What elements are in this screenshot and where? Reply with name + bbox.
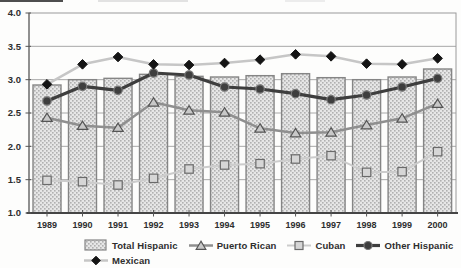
bar-total-hispanic <box>175 76 203 213</box>
x-tick-label: 1999 <box>392 220 412 230</box>
legend-item-puerto-rican: Puerto Rican <box>189 239 277 252</box>
y-tick-label: 1.0 <box>8 207 21 218</box>
square-marker <box>149 174 157 182</box>
circle-marker <box>256 85 264 93</box>
legend-label-other-hispanic: Other Hispanic <box>384 240 453 251</box>
legend-label-mexican: Mexican <box>112 255 150 266</box>
diamond-marker-icon <box>84 254 108 267</box>
circle-marker <box>398 83 406 91</box>
chart-legend: Total Hispanic Puerto Rican Cuban Other … <box>84 239 453 268</box>
square-marker <box>327 151 335 159</box>
square-marker-icon <box>287 239 311 252</box>
square-marker <box>291 155 299 163</box>
diamond-marker <box>291 50 301 60</box>
diamond-marker <box>78 60 88 70</box>
legend-label-total-hispanic: Total Hispanic <box>112 240 178 251</box>
circle-marker <box>362 91 370 99</box>
y-tick-label: 2.0 <box>8 141 21 152</box>
diamond-marker <box>113 52 123 62</box>
bar-total-hispanic <box>69 80 97 213</box>
x-tick-label: 1997 <box>321 220 341 230</box>
diamond-marker <box>362 59 372 69</box>
square-marker <box>78 177 86 185</box>
square-marker <box>220 161 228 169</box>
x-tick-label: 1998 <box>357 220 377 230</box>
square-marker <box>256 159 264 167</box>
legend-item-mexican: Mexican <box>84 254 150 267</box>
diamond-marker <box>255 55 265 65</box>
bar-total-hispanic <box>104 78 132 213</box>
y-tick-label: 3.0 <box>8 74 21 85</box>
circle-marker <box>291 89 299 97</box>
legend-item-total-hispanic: Total Hispanic <box>84 239 178 252</box>
x-tick-label: 1996 <box>286 220 306 230</box>
x-tick-label: 1992 <box>144 220 164 230</box>
square-marker <box>114 181 122 189</box>
diamond-marker <box>220 58 230 68</box>
square-marker <box>185 165 193 173</box>
bar-swatch-icon <box>84 239 108 252</box>
x-tick-label: 1994 <box>215 220 235 230</box>
scanned-chart-page: 1.01.52.02.53.03.54.01989199019911992199… <box>0 0 461 268</box>
legend-label-cuban: Cuban <box>315 240 345 251</box>
square-marker <box>398 167 406 175</box>
circle-marker <box>43 97 51 105</box>
diamond-marker <box>433 54 443 64</box>
circle-marker <box>78 82 86 90</box>
diamond-marker <box>149 60 159 70</box>
circle-marker <box>433 74 441 82</box>
x-tick-label: 1991 <box>108 220 128 230</box>
circle-marker <box>185 71 193 79</box>
legend-row-1: Total Hispanic Puerto Rican Cuban Other … <box>84 239 453 252</box>
square-marker <box>433 147 441 155</box>
legend-row-2: Mexican <box>84 254 453 267</box>
x-tick-label: 1995 <box>250 220 270 230</box>
chart-plot: 1.01.52.02.53.03.54.01989199019911992199… <box>0 0 461 236</box>
y-tick-label: 2.5 <box>8 107 22 118</box>
diamond-marker <box>326 52 336 62</box>
bar-total-hispanic <box>388 77 416 213</box>
bar-total-hispanic <box>211 77 239 213</box>
y-tick-label: 4.0 <box>8 7 21 18</box>
x-tick-label: 1989 <box>37 220 57 230</box>
square-marker <box>43 176 51 184</box>
legend-label-puerto-rican: Puerto Rican <box>217 240 277 251</box>
triangle-marker-icon <box>189 239 213 252</box>
y-tick-label: 3.5 <box>8 41 22 52</box>
legend-item-other-hispanic: Other Hispanic <box>356 239 453 252</box>
x-tick-label: 1993 <box>179 220 199 230</box>
square-marker <box>362 168 370 176</box>
y-tick-label: 1.5 <box>8 174 22 185</box>
circle-marker <box>220 83 228 91</box>
bar-total-hispanic <box>246 76 274 213</box>
circle-marker <box>327 95 335 103</box>
diamond-marker <box>184 60 194 70</box>
bar-total-hispanic <box>424 69 452 213</box>
x-tick-label: 2000 <box>428 220 448 230</box>
x-tick-label: 1990 <box>72 220 92 230</box>
bar-total-hispanic <box>140 74 168 213</box>
circle-marker <box>149 69 157 77</box>
circle-marker <box>114 86 122 94</box>
circle-marker-icon <box>356 239 380 252</box>
legend-item-cuban: Cuban <box>287 239 345 252</box>
diamond-marker <box>397 60 407 70</box>
